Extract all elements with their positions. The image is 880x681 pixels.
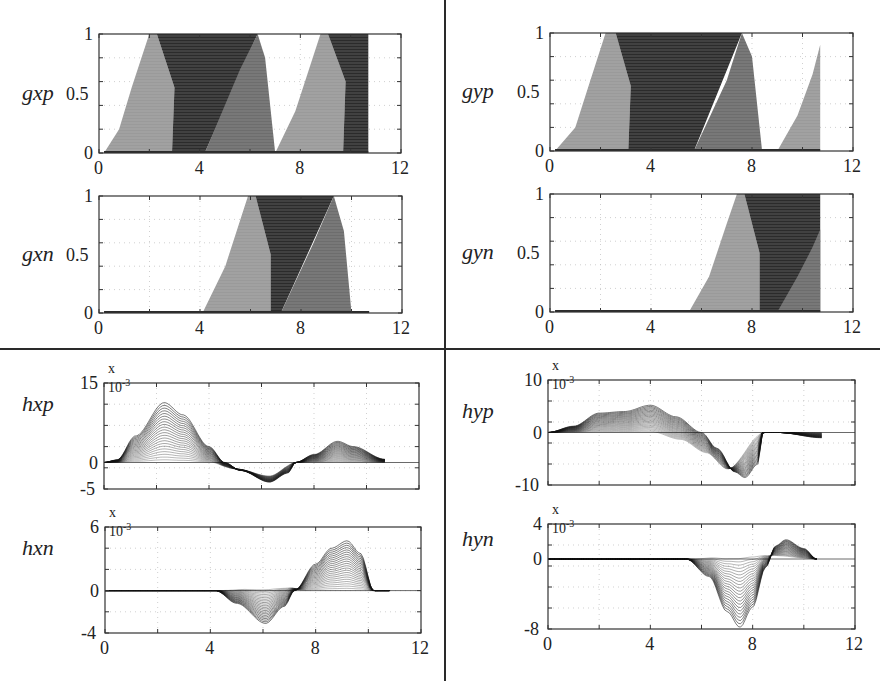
x-tick-label: 0: [94, 319, 103, 337]
y-tick-label: 0: [90, 582, 99, 600]
y-tick-label: 1: [535, 24, 544, 42]
y-tick-label: -4: [81, 624, 96, 642]
y-tick-label: 0: [89, 454, 98, 472]
y-tick-label: 0: [84, 304, 93, 322]
x-tick-label: 0: [100, 639, 109, 657]
trace-line: [105, 575, 389, 600]
plot-area: [104, 383, 419, 489]
trace-line: [548, 555, 817, 562]
plot-area: [105, 527, 421, 633]
axis-exponent-label: x 10-3: [552, 358, 574, 393]
x-tick-label: 4: [205, 639, 214, 657]
y-tick-label: 0: [535, 142, 544, 160]
trace-line: [105, 548, 389, 619]
axis-exponent-label: x 10-3: [109, 505, 131, 540]
x-tick-label: 4: [646, 157, 655, 175]
y-tick-label: 0: [535, 303, 544, 321]
y-tick-label: -5: [80, 480, 95, 498]
y-axis-label: gxp: [22, 80, 54, 106]
trace-line: [105, 579, 389, 596]
y-tick-label: 6: [90, 518, 99, 536]
x-tick-label: 4: [195, 319, 204, 337]
y-axis-label: hyp: [462, 398, 494, 424]
y-tick-label: -8: [524, 620, 539, 638]
y-tick-label: 1: [84, 187, 93, 205]
plot-area: [548, 524, 855, 629]
x-tick-label: 8: [295, 159, 304, 177]
x-tick-label: 8: [311, 639, 320, 657]
x-tick-label: 0: [543, 635, 552, 653]
y-tick-label: -10: [515, 476, 539, 494]
x-tick-label: 12: [391, 159, 409, 177]
plot-area: [550, 194, 853, 312]
trace-line: [548, 431, 822, 469]
y-tick-label: 0.5: [66, 85, 89, 103]
trace-line: [548, 555, 817, 559]
x-tick-label: 12: [392, 319, 410, 337]
trace-line: [105, 577, 389, 598]
y-tick-label: 15: [80, 374, 98, 392]
y-axis-label: gxn: [22, 241, 54, 267]
trace-line: [548, 405, 822, 477]
x-tick-label: 4: [645, 635, 654, 653]
x-tick-label: 8: [747, 157, 756, 175]
y-tick-label: 1: [84, 25, 93, 43]
trace-line: [105, 543, 389, 622]
x-tick-label: 8: [747, 318, 756, 336]
horizontal-divider: [0, 348, 880, 350]
x-tick-label: 12: [411, 639, 429, 657]
plot-area: [548, 380, 855, 485]
x-tick-label: 0: [545, 157, 554, 175]
y-tick-label: 0.5: [517, 83, 540, 101]
x-tick-label: 12: [843, 157, 861, 175]
trace-line: [105, 541, 389, 624]
axis-exponent-label: x 10-3: [552, 502, 574, 537]
x-tick-label: 8: [296, 319, 305, 337]
trace-line: [104, 449, 385, 477]
x-tick-label: 4: [646, 318, 655, 336]
axis-exponent-label: x 10-3: [108, 361, 130, 396]
x-tick-label: 12: [843, 318, 861, 336]
y-tick-label: 0: [533, 550, 542, 568]
trace-line: [104, 454, 385, 476]
trace-line: [548, 406, 822, 476]
plot-area: [99, 34, 401, 153]
y-axis-label: gyn: [462, 239, 494, 265]
y-axis-label: hxp: [22, 391, 54, 417]
y-tick-label: 0.5: [66, 246, 89, 264]
y-axis-label: hyn: [462, 526, 494, 552]
trace-line: [548, 555, 817, 566]
y-tick-label: 1: [535, 185, 544, 203]
trace-line: [105, 550, 389, 617]
x-tick-label: 8: [748, 635, 757, 653]
plot-area: [99, 196, 402, 313]
x-tick-label: 0: [545, 318, 554, 336]
x-tick-label: 4: [195, 159, 204, 177]
y-tick-label: 4: [533, 515, 542, 533]
x-tick-label: 0: [94, 159, 103, 177]
y-tick-label: 0.5: [517, 244, 540, 262]
trace-line: [105, 582, 389, 595]
vertical-divider: [444, 0, 446, 681]
y-tick-label: 0: [84, 144, 93, 162]
y-tick-label: 10: [524, 371, 542, 389]
y-axis-label: gyp: [462, 78, 494, 104]
y-tick-label: 0: [533, 424, 542, 442]
x-tick-label: 12: [845, 635, 863, 653]
y-axis-label: hxn: [22, 535, 54, 561]
plot-area: [550, 33, 853, 151]
